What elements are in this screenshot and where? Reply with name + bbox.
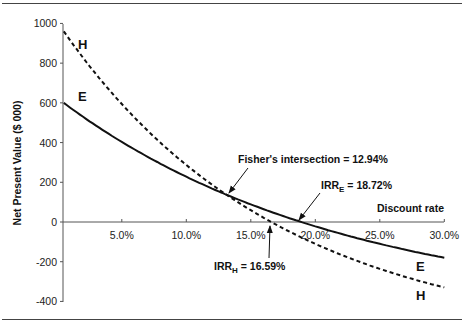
irr-h-label: IRRH = 16.59%	[214, 260, 286, 275]
irr-e-arrow	[299, 193, 320, 220]
y-axis-label: Net Present Value ($ 000)	[11, 101, 23, 226]
y-tick-label: -200	[36, 256, 57, 268]
x-axis-label: Discount rate	[377, 202, 444, 214]
y-tick-label: 0	[51, 216, 57, 228]
x-tick-label: 25.0%	[365, 229, 395, 241]
irr-h-arrow	[269, 226, 270, 258]
npv-chart: 10008006004002000-200-4005.0%10.0%15.0%2…	[0, 0, 467, 323]
axes: 10008006004002000-200-4005.0%10.0%15.0%2…	[11, 17, 459, 307]
fisher-intersection-label: Fisher's intersection = 12.94%	[238, 153, 389, 165]
y-tick-label: -400	[36, 295, 57, 307]
y-tick-label: 400	[39, 137, 57, 149]
irr-e-label: IRRE = 18.72%	[321, 179, 393, 194]
x-tick-label: 5.0%	[110, 229, 134, 241]
x-tick-label: 30.0%	[429, 229, 459, 241]
y-tick-label: 600	[39, 97, 57, 109]
series-e-label-end: E	[416, 259, 425, 274]
y-tick-label: 200	[39, 176, 57, 188]
fisher-arrow	[229, 168, 248, 193]
annotations: Fisher's intersection = 12.94%IRRE = 18.…	[214, 153, 393, 275]
x-tick-label: 15.0%	[236, 229, 266, 241]
series-e-label-start: E	[78, 89, 87, 104]
y-tick-label: 1000	[34, 17, 58, 29]
x-tick-label: 10.0%	[171, 229, 201, 241]
y-tick-label: 800	[39, 57, 57, 69]
series-h-label-end: H	[416, 288, 425, 303]
series-h-label-start: H	[78, 37, 87, 52]
